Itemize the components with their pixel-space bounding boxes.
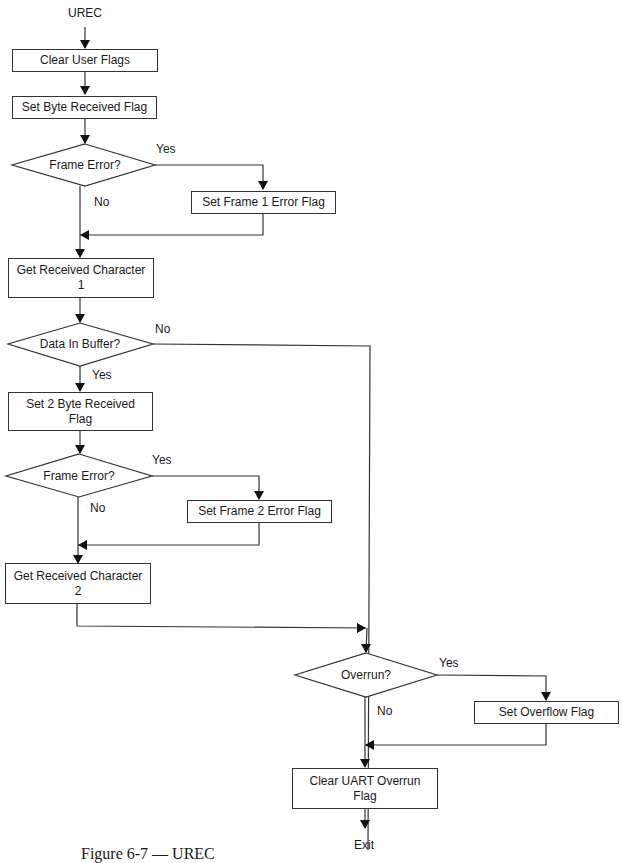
- clear-user-flags-box: Clear User Flags: [12, 49, 158, 72]
- set-2byte-received-box: Set 2 Byte Received Flag: [8, 392, 153, 431]
- clear-uart-overrun-box: Clear UART Overrun Flag: [292, 768, 438, 809]
- set-byte-received-box: Set Byte Received Flag: [12, 96, 157, 119]
- get-char-1-text: Get Received Character 1: [15, 263, 147, 293]
- set-overflow-box: Set Overflow Flag: [474, 701, 619, 724]
- overrun-text: Overrun?: [341, 668, 391, 682]
- clear-uart-overrun-text: Clear UART Overrun Flag: [301, 774, 429, 804]
- frame-error-1-text: Frame Error?: [49, 158, 120, 172]
- fe1-yes-label: Yes: [156, 142, 176, 156]
- exit-label: Exit: [354, 838, 374, 852]
- ovr-no-label: No: [377, 704, 392, 718]
- set-2byte-received-text: Set 2 Byte Received Flag: [19, 397, 142, 427]
- set-byte-received-text: Set Byte Received Flag: [22, 100, 147, 115]
- dib-no-label: No: [155, 322, 170, 336]
- fe2-yes-label: Yes: [152, 453, 172, 467]
- data-in-buffer-text: Data In Buffer?: [40, 337, 121, 351]
- dib-yes-label: Yes: [92, 368, 112, 382]
- fe1-no-label: No: [94, 195, 109, 209]
- fe2-no-label: No: [90, 501, 105, 515]
- figure-caption: Figure 6-7 — UREC: [81, 845, 215, 863]
- set-overflow-text: Set Overflow Flag: [499, 705, 594, 720]
- set-frame1-error-box: Set Frame 1 Error Flag: [191, 191, 336, 214]
- get-char-1-box: Get Received Character 1: [8, 258, 154, 298]
- frame-error-2-text: Frame Error?: [43, 469, 114, 483]
- clear-user-flags-text: Clear User Flags: [40, 53, 130, 68]
- start-label: UREC: [68, 6, 102, 20]
- set-frame2-error-text: Set Frame 2 Error Flag: [198, 504, 321, 519]
- get-char-2-box: Get Received Character 2: [5, 563, 151, 604]
- get-char-2-text: Get Received Character 2: [12, 569, 144, 599]
- set-frame1-error-text: Set Frame 1 Error Flag: [202, 195, 325, 210]
- set-frame2-error-box: Set Frame 2 Error Flag: [187, 500, 332, 523]
- ovr-yes-label: Yes: [439, 656, 459, 670]
